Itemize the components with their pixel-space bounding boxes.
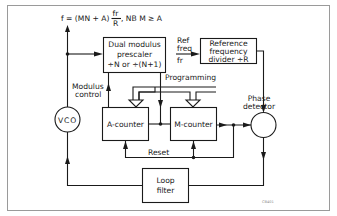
ref-divider-line3: divider ÷R <box>208 55 249 64</box>
fr-label: fr <box>177 56 184 65</box>
programming-label: Programming <box>165 73 216 82</box>
reference-divider-block: Reference frequency divider ÷R <box>201 39 257 65</box>
formula-numerator: fr <box>113 9 120 18</box>
phase-detector-line2: detector <box>243 102 276 111</box>
loop-filter-line1: Loop <box>156 176 174 185</box>
m-counter-block: M-counter <box>171 108 217 141</box>
a-counter-block: A-counter <box>103 108 149 141</box>
prescaler-line3: ÷N or ÷(N+1) <box>108 60 162 69</box>
loop-filter-block: Loop filter <box>143 169 189 203</box>
formula-denominator: R <box>113 19 119 28</box>
m-counter-label: M-counter <box>174 120 213 129</box>
modulus-control-label2: control <box>75 90 101 99</box>
pll-diagram: f = (MN + A) fr R , NB M ≥ A Dual modulu… <box>0 0 337 216</box>
formula-note: , NB M ≥ A <box>121 14 163 23</box>
loop-filter-line2: filter <box>157 186 176 195</box>
reset-label: Reset <box>148 148 169 157</box>
a-counter-label: A-counter <box>107 120 145 129</box>
junction-dot <box>192 156 196 160</box>
prescaler-block: Dual modulus prescaler ÷N or ÷(N+1) <box>104 38 166 73</box>
vco-label: VCO <box>58 116 77 125</box>
figure-code: CB401 <box>262 200 274 204</box>
prescaler-line1: Dual modulus <box>108 40 160 49</box>
formula-lhs: f = (MN + A) <box>61 14 109 23</box>
prescaler-line2: prescaler <box>117 50 153 59</box>
freq-label: freq <box>177 44 192 53</box>
vco-block: VCO <box>55 107 80 132</box>
